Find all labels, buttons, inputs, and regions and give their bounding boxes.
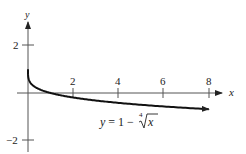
radicand: x [147, 115, 154, 129]
x-tick-label: 8 [206, 75, 212, 87]
x-axis-label: x [228, 86, 234, 98]
x-tick-label: 6 [160, 75, 166, 87]
svg-text:y = 1 −: y = 1 − [99, 115, 134, 129]
function-plot: x y 2 4 6 8 2 −2 y = 1 − 4 x [0, 0, 246, 154]
y-tick-label: 2 [13, 39, 19, 51]
x-ticks: 2 4 6 8 [70, 75, 212, 98]
equation-label: y = 1 − 4 x [99, 111, 158, 129]
root-index: 4 [139, 111, 143, 119]
equation-prefix: = 1 − [105, 115, 134, 129]
y-axis-label: y [24, 9, 30, 20]
y-tick-label: −2 [6, 134, 18, 146]
x-tick-label: 4 [115, 75, 121, 87]
x-tick-label: 2 [70, 75, 76, 87]
